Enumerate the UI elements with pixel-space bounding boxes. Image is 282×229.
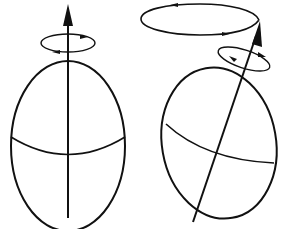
- tilted-ellipsoid-outline: [150, 58, 282, 227]
- upright-body: [11, 4, 125, 229]
- precession-ellipse: [141, 4, 259, 35]
- tilted-body: [141, 3, 282, 228]
- precession-arrow-icon-1: [170, 3, 178, 7]
- tilted-ring-arrow-icon-2: [229, 56, 237, 62]
- tilted-ring-arrow-icon-1: [258, 52, 266, 57]
- diagram-svg: [0, 0, 282, 229]
- diagram-canvas: [0, 0, 282, 229]
- upright-axis-arrowhead-icon: [63, 4, 73, 26]
- tilted-spin-axis: [193, 36, 256, 222]
